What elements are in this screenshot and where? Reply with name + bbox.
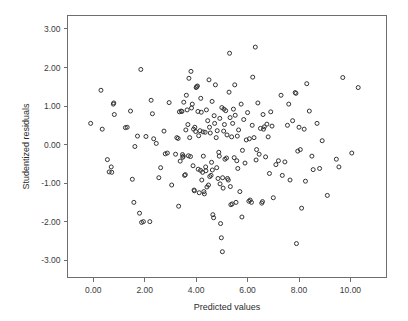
data-point <box>265 122 269 126</box>
data-point <box>204 108 208 112</box>
data-point <box>154 141 158 145</box>
data-point <box>199 96 203 100</box>
data-point <box>197 134 201 138</box>
plot-frame <box>68 16 387 278</box>
data-point <box>184 93 188 97</box>
data-point <box>210 168 214 172</box>
data-point <box>212 114 216 118</box>
data-point <box>341 76 345 80</box>
data-point <box>233 113 237 117</box>
data-point <box>280 173 284 177</box>
data-point <box>305 82 309 86</box>
y-axis-ticks: -3.00-2.00-1.000.001.002.003.00 <box>41 24 67 265</box>
data-point <box>200 178 204 182</box>
data-point <box>236 166 240 170</box>
data-point <box>302 127 306 131</box>
data-point <box>228 116 232 120</box>
plot-border <box>68 16 387 278</box>
data-point <box>213 83 217 87</box>
data-point <box>310 154 314 158</box>
data-point <box>257 152 261 156</box>
y-axis-title: Studentized residuals <box>21 103 31 190</box>
data-point <box>149 98 153 102</box>
x-tick-label: 2.00 <box>136 285 153 295</box>
data-point <box>227 90 231 94</box>
data-point <box>266 135 270 139</box>
data-point <box>220 250 224 254</box>
data-point <box>148 220 152 224</box>
y-tick-label: 1.00 <box>44 101 61 111</box>
data-point <box>201 154 205 158</box>
data-point <box>240 215 244 219</box>
data-point <box>99 88 103 92</box>
data-point <box>129 109 133 113</box>
data-point <box>182 100 186 104</box>
data-point <box>231 107 235 111</box>
data-point <box>157 176 161 180</box>
data-point <box>337 165 341 169</box>
data-point <box>135 134 139 138</box>
data-point <box>105 158 109 162</box>
data-point <box>271 196 275 200</box>
data-point <box>325 193 329 197</box>
x-tick-label: 0.00 <box>85 285 102 295</box>
y-tick-label: 2.00 <box>44 63 61 73</box>
data-point <box>221 186 225 190</box>
data-point <box>150 112 154 116</box>
data-point <box>235 134 239 138</box>
data-point <box>219 236 223 240</box>
data-point <box>177 204 181 208</box>
y-tick-label: -1.00 <box>41 178 61 188</box>
x-tick-label: 4.00 <box>188 285 205 295</box>
data-point <box>239 102 243 106</box>
data-point <box>276 159 280 163</box>
data-point <box>242 118 246 122</box>
data-point <box>237 128 241 132</box>
data-point <box>144 134 148 138</box>
data-point <box>269 110 273 114</box>
data-point <box>189 69 193 73</box>
data-point <box>190 102 194 106</box>
data-point <box>315 121 319 125</box>
data-point <box>255 148 259 152</box>
data-point <box>279 93 283 97</box>
data-point <box>138 211 142 215</box>
data-point <box>222 123 226 127</box>
data-point <box>100 127 104 131</box>
data-point <box>228 185 232 189</box>
data-point <box>233 83 237 87</box>
data-point <box>217 154 221 158</box>
data-point <box>197 191 201 195</box>
y-tick-label: 3.00 <box>44 24 61 34</box>
data-point <box>270 124 274 128</box>
data-point <box>178 159 182 163</box>
data-point <box>215 129 219 133</box>
y-tick-label: -2.00 <box>41 217 61 227</box>
data-point <box>231 121 235 125</box>
data-point <box>307 109 311 113</box>
data-point <box>130 177 134 181</box>
x-tick-label: 10.00 <box>340 285 362 295</box>
data-point <box>285 123 289 127</box>
data-point <box>254 158 258 162</box>
data-point <box>219 222 223 226</box>
data-point <box>228 51 232 55</box>
data-point <box>217 150 221 154</box>
data-points <box>89 45 361 254</box>
data-point <box>243 161 247 165</box>
data-point <box>222 129 226 133</box>
data-point <box>162 129 166 133</box>
data-point <box>215 166 219 170</box>
y-tick-label: 0.00 <box>44 140 61 150</box>
data-point <box>294 242 298 246</box>
data-point <box>210 160 214 164</box>
data-point <box>250 123 254 127</box>
x-axis-title: Predicted values <box>194 302 261 312</box>
data-point <box>311 168 315 172</box>
data-point <box>334 157 338 161</box>
data-point <box>132 200 136 204</box>
data-point <box>350 151 354 155</box>
data-point <box>225 133 229 137</box>
data-point <box>190 106 194 110</box>
data-point <box>139 67 143 71</box>
